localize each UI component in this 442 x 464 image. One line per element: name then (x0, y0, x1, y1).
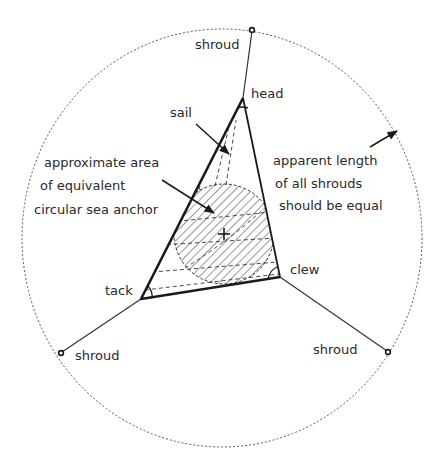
shroud-left-ring-icon (59, 351, 64, 356)
sail-pointer-arrow (196, 124, 229, 154)
shroud-top-ring-icon (250, 28, 255, 33)
label-area-line2: of equivalent (40, 178, 125, 193)
shroud-left-line (62, 299, 141, 352)
label-shroud-left: shroud (75, 348, 120, 363)
sea-anchor-diagram: shroud head sail approximate area of equ… (0, 0, 442, 464)
label-tack: tack (105, 283, 133, 298)
length-pointer-arrow (370, 131, 397, 147)
label-head: head (251, 86, 283, 101)
label-area-line1: approximate area (44, 155, 159, 170)
label-length-line1: apparent length (273, 153, 377, 168)
label-shroud-top: shroud (195, 37, 240, 52)
label-area-line3: circular sea anchor (34, 202, 159, 217)
label-shroud-right: shroud (313, 342, 358, 357)
label-length-line3: should be equal (279, 198, 383, 213)
label-clew: clew (290, 262, 320, 277)
shroud-right-ring-icon (386, 350, 391, 355)
label-sail: sail (170, 105, 192, 120)
head-angle-mark (238, 107, 248, 108)
label-length-line2: of all shrouds (275, 176, 363, 191)
shroud-right-line (280, 277, 387, 351)
